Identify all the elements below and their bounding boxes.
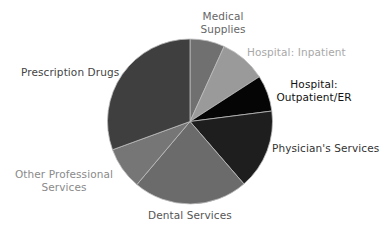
label-line: Supplies bbox=[188, 23, 258, 36]
label-dental-services: Dental Services bbox=[140, 209, 240, 222]
label-line: Physician's Services bbox=[272, 142, 379, 155]
label-line: Dental Services bbox=[140, 209, 240, 222]
label-line: Services bbox=[12, 181, 116, 194]
label-line: Medical bbox=[188, 10, 258, 23]
label-line: Hospital: bbox=[270, 78, 358, 91]
label-medical-supplies: Medical Supplies bbox=[188, 10, 258, 36]
label-line: Hospital: Inpatient bbox=[247, 46, 346, 59]
label-physicians-services: Physician's Services bbox=[272, 142, 379, 155]
label-hospital-inpatient: Hospital: Inpatient bbox=[247, 46, 346, 59]
label-line: Other Professional bbox=[12, 168, 116, 181]
pie-chart: Medical Supplies Hospital: Inpatient Hos… bbox=[0, 0, 382, 230]
label-prescription-drugs: Prescription Drugs bbox=[21, 66, 119, 79]
label-hospital-outpatient: Hospital: Outpatient/ER bbox=[270, 78, 358, 104]
label-line: Outpatient/ER bbox=[270, 91, 358, 104]
label-line: Prescription Drugs bbox=[21, 66, 119, 79]
label-other-professional: Other Professional Services bbox=[12, 168, 116, 194]
